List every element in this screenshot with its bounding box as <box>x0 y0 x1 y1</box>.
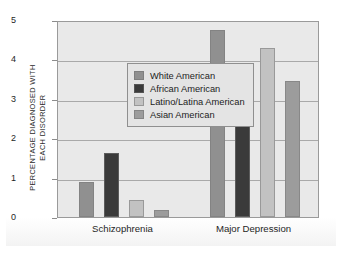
legend: White AmericanAfrican AmericanLatino/Lat… <box>127 63 254 127</box>
y-tick-label: 2 <box>0 133 16 143</box>
bar <box>129 200 144 217</box>
bar <box>260 48 275 217</box>
gridline <box>58 140 318 141</box>
y-tick-label: 0 <box>0 212 16 222</box>
legend-swatch-icon <box>134 84 144 93</box>
y-tick-label: 5 <box>0 15 16 25</box>
legend-swatch-icon <box>134 97 144 106</box>
legend-label: Asian American <box>150 110 215 120</box>
y-tick-mark <box>52 218 57 219</box>
legend-item[interactable]: Latino/Latina American <box>134 95 245 108</box>
bar <box>154 210 169 217</box>
legend-item[interactable]: African American <box>134 82 245 95</box>
bar <box>104 153 119 217</box>
y-tick-label: 3 <box>0 94 16 104</box>
bar <box>79 182 94 217</box>
y-tick-label: 1 <box>0 173 16 183</box>
legend-swatch-icon <box>134 110 144 119</box>
legend-label: Latino/Latina American <box>150 97 245 107</box>
legend-label: White American <box>150 71 215 81</box>
x-category-label: Schizophrenia <box>92 223 153 234</box>
y-tick-label: 4 <box>0 54 16 64</box>
plot-area: White AmericanAfrican AmericanLatino/Lat… <box>57 21 319 218</box>
legend-item[interactable]: Asian American <box>134 108 245 121</box>
gridline <box>58 180 318 181</box>
x-category-label: Major Depression <box>216 223 291 234</box>
figure: PERCENTAGE DIAGNOSED WITH EACH DISORDER … <box>0 0 340 257</box>
legend-label: African American <box>150 84 220 94</box>
legend-item[interactable]: White American <box>134 69 245 82</box>
legend-swatch-icon <box>134 71 144 80</box>
y-axis-title: PERCENTAGE DIAGNOSED WITH EACH DISORDER <box>28 23 47 233</box>
bar <box>285 81 300 217</box>
